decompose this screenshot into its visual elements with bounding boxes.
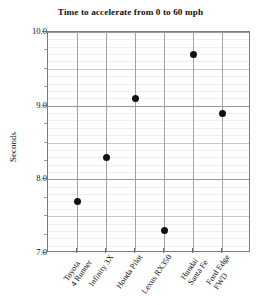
y-tick-mark [42,178,47,179]
x-tick-mark [105,248,106,253]
chart-title: Time to accelerate from 0 to 60 mph [0,7,261,17]
x-tick-mark [76,248,77,253]
data-point [161,227,168,234]
data-point [103,154,110,161]
data-point [190,51,197,58]
y-tick-mark-minor [44,160,47,161]
y-tick-mark-minor [44,123,47,124]
data-point [74,198,81,205]
x-tick-label: Honda Pilot [114,253,144,290]
y-tick-mark-minor [44,86,47,87]
x-tick-mark [221,248,222,253]
x-axis: Toyota4 RunnerInfinity 3XHonda PilotLexu… [0,253,261,305]
data-point [132,95,139,102]
y-tick-mark-minor [44,68,47,69]
y-tick-mark-minor [44,49,47,50]
y-tick-mark [42,31,47,32]
data-points [48,32,249,251]
y-tick-mark-minor [44,234,47,235]
x-tick-label: Infinity 3X [87,253,115,288]
y-axis-title: Seconds [6,112,20,182]
x-tick-label-line: Infinity 3X [87,253,115,288]
scatter-chart: Time to accelerate from 0 to 60 mph Seco… [0,0,261,305]
data-point [219,110,226,117]
y-tick-mark [42,105,47,106]
y-tick-mark-minor [44,142,47,143]
x-tick-label-line: Honda Pilot [114,253,144,290]
x-tick-label: Lexus RX350 [140,253,174,296]
y-tick-mark-minor [44,215,47,216]
x-tick-mark [163,248,164,253]
y-tick-mark-minor [44,197,47,198]
x-tick-mark [134,248,135,253]
plot-area [47,31,250,252]
x-tick-label: Ford EdgeFWD [204,253,238,291]
x-tick-mark [192,248,193,253]
x-tick-label-line: Lexus RX350 [140,253,174,296]
